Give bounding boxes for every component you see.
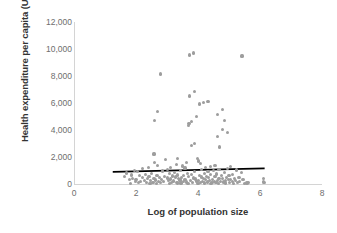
data-point	[188, 94, 191, 97]
data-point	[152, 152, 155, 155]
data-point	[175, 163, 178, 166]
data-point	[206, 180, 209, 183]
data-point	[161, 169, 164, 172]
x-tick-label: 6	[248, 188, 272, 198]
data-point	[206, 100, 209, 103]
data-point	[216, 135, 219, 138]
data-point	[221, 128, 224, 131]
data-point	[235, 168, 238, 171]
data-point	[237, 176, 240, 179]
data-point	[166, 168, 169, 171]
data-point	[196, 182, 199, 185]
data-point	[159, 72, 162, 75]
data-point	[123, 175, 126, 178]
data-point	[125, 171, 128, 174]
plot-area	[74, 22, 322, 184]
x-tick-label: 0	[62, 188, 86, 198]
data-point	[213, 164, 216, 167]
data-point	[192, 51, 195, 54]
data-point	[217, 168, 220, 171]
data-point	[223, 119, 226, 122]
data-point	[183, 166, 186, 169]
data-point	[240, 54, 243, 57]
data-point	[209, 182, 212, 185]
data-point	[199, 162, 202, 165]
y-tick-label: 8,000	[30, 72, 72, 81]
y-axis-tick-labels: 02,0004,0006,0008,00010,00012,000	[26, 0, 72, 190]
y-tick-label: 6,000	[30, 99, 72, 108]
y-tick-label: 10,000	[30, 45, 72, 54]
data-point	[188, 53, 191, 56]
data-point	[148, 182, 151, 185]
x-tick-label: 4	[186, 188, 210, 198]
data-point	[262, 181, 265, 184]
data-point	[191, 181, 194, 184]
data-point	[129, 182, 132, 185]
data-point	[155, 182, 158, 185]
x-axis-title: Log of population size	[74, 206, 322, 217]
data-point	[213, 175, 216, 178]
y-tick-label: 4,000	[30, 126, 72, 135]
y-tick-label: 2,000	[30, 153, 72, 162]
scatter-chart: Health expenditure per capita (US$) 02,0…	[0, 0, 337, 233]
data-point	[185, 161, 188, 164]
data-point	[217, 182, 220, 185]
data-point	[223, 171, 226, 174]
data-point	[218, 145, 221, 148]
x-tick-label: 2	[124, 188, 148, 198]
x-tick-label: 8	[310, 188, 334, 198]
data-point	[179, 181, 182, 184]
data-point	[193, 170, 196, 173]
y-tick-label: 12,000	[30, 18, 72, 27]
data-point	[209, 165, 212, 168]
data-point	[144, 173, 147, 176]
data-point	[231, 173, 234, 176]
data-point	[186, 182, 189, 185]
data-point	[247, 181, 250, 184]
